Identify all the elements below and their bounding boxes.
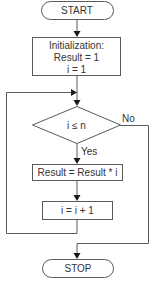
- edge-decision-no-stop: [77, 126, 149, 255]
- flowchart: START Initialization: Result = 1 i = 1 i…: [0, 0, 154, 281]
- arrowhead-icon: [74, 195, 81, 201]
- start-node: START: [42, 2, 114, 20]
- yes-label: Yes: [81, 146, 97, 157]
- stop-label: STOP: [64, 263, 91, 274]
- init-line-3: i = 1: [67, 64, 87, 75]
- increment-node: i = i + 1: [43, 202, 113, 220]
- init-line-2: Result = 1: [54, 52, 100, 63]
- no-label: No: [122, 113, 135, 124]
- stop-node: STOP: [43, 260, 114, 278]
- arrowhead-icon: [74, 253, 81, 259]
- multiply-label: Result = Result * i: [38, 167, 118, 178]
- arrowhead-icon: [74, 31, 81, 37]
- init-node: Initialization: Result = 1 i = 1: [33, 38, 121, 76]
- arrowhead-icon: [71, 89, 77, 96]
- arrowhead-icon: [74, 158, 81, 164]
- increment-label: i = i + 1: [61, 205, 94, 216]
- multiply-node: Result = Result * i: [33, 165, 123, 181]
- decision-label: i ≤ n: [67, 120, 86, 131]
- init-line-1: Initialization:: [49, 40, 104, 51]
- decision-node: i ≤ n: [33, 107, 121, 144]
- start-label: START: [61, 5, 93, 16]
- arrowhead-icon: [74, 100, 81, 106]
